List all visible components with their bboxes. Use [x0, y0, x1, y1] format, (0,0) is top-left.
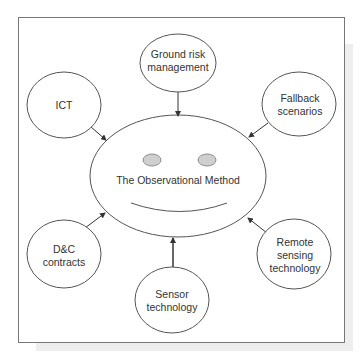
svg-text:technology: technology: [270, 262, 322, 274]
node-ground-risk: Ground risk management: [140, 34, 216, 92]
node-remote-sensing: Remote sensing technology: [257, 219, 331, 289]
svg-text:sensing: sensing: [277, 249, 313, 261]
node-ict: ICT: [27, 72, 101, 138]
svg-text:management: management: [147, 61, 208, 73]
left-eye-icon: [143, 154, 161, 166]
svg-text:ICT: ICT: [56, 99, 74, 111]
svg-text:D&C: D&C: [53, 243, 76, 255]
svg-text:contracts: contracts: [43, 256, 86, 268]
right-eye-icon: [198, 154, 216, 166]
node-dc-contracts: D&C contracts: [27, 220, 101, 288]
svg-text:Sensor: Sensor: [155, 288, 189, 300]
node-sensor-tech: Sensor technology: [135, 267, 209, 333]
svg-text:Fallback: Fallback: [280, 92, 320, 104]
svg-text:Ground risk: Ground risk: [151, 48, 206, 60]
center-label: The Observational Method: [116, 174, 240, 186]
svg-text:Remote: Remote: [277, 236, 314, 248]
node-fallback: Fallback scenarios: [262, 72, 336, 136]
svg-text:scenarios: scenarios: [278, 105, 323, 117]
svg-text:technology: technology: [147, 301, 199, 313]
observational-method-diagram: The Observational Method Ground risk man…: [0, 0, 363, 363]
center-node: The Observational Method: [90, 115, 266, 237]
